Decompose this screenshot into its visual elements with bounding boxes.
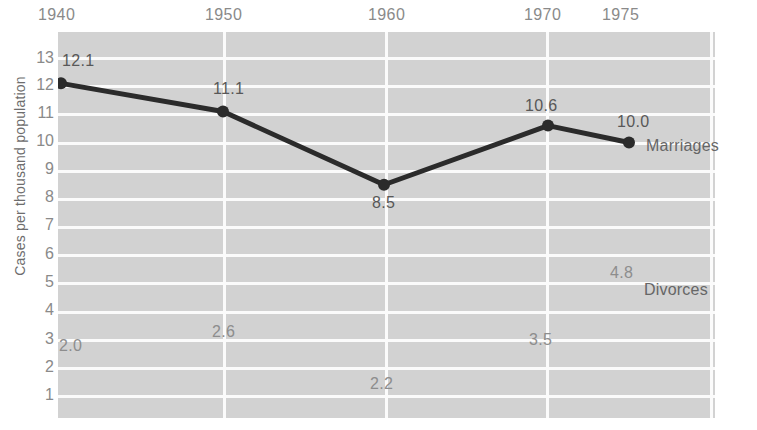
data-value-label: 2.6 xyxy=(212,323,235,341)
line-chart: Cases per thousand population 1312111098… xyxy=(0,0,757,430)
series-label-marriages: Marriages xyxy=(646,137,719,155)
y-axis-tick-label: 5 xyxy=(24,273,54,291)
data-value-label: 8.5 xyxy=(372,194,395,212)
y-axis-tick-label: 9 xyxy=(24,160,54,178)
y-axis-tick-label: 10 xyxy=(24,132,54,150)
y-axis-tick-label: 12 xyxy=(24,76,54,94)
y-axis-tick-label: 6 xyxy=(24,245,54,263)
x-axis-tick-label: 1950 xyxy=(205,6,242,24)
y-axis-tick-label: 4 xyxy=(24,301,54,319)
data-value-label: 2.0 xyxy=(59,337,82,355)
data-point-marker xyxy=(623,137,635,149)
y-axis-tick-label: 8 xyxy=(24,188,54,206)
data-value-label: 12.1 xyxy=(62,52,94,70)
y-axis-tick-label: 2 xyxy=(24,358,54,376)
y-axis-tick-label: 11 xyxy=(24,104,54,122)
x-axis-tick-label: 1975 xyxy=(602,6,639,24)
data-value-label: 10.6 xyxy=(525,97,557,115)
plot-area xyxy=(58,32,715,418)
data-value-label: 2.2 xyxy=(370,375,393,393)
y-axis-tick-label: 13 xyxy=(24,49,54,67)
x-axis-tick-label: 1970 xyxy=(524,6,561,24)
data-point-marker xyxy=(217,106,229,118)
data-point-marker xyxy=(58,77,67,89)
data-point-marker xyxy=(378,179,390,191)
data-value-label: 4.8 xyxy=(610,264,633,282)
y-axis-tick-label: 3 xyxy=(24,330,54,348)
data-value-label: 3.5 xyxy=(529,331,552,349)
x-axis-tick-label: 1940 xyxy=(38,6,75,24)
series-label-divorces: Divorces xyxy=(644,281,708,299)
marriages-series xyxy=(58,32,715,418)
marriages-markers xyxy=(58,77,635,190)
data-value-label: 11.1 xyxy=(213,80,244,98)
y-axis-tick-label: 7 xyxy=(24,216,54,234)
x-axis-tick-label: 1960 xyxy=(368,6,405,24)
data-point-marker xyxy=(542,120,554,132)
y-axis-tick-labels: 13121110987654321 xyxy=(18,0,54,430)
data-value-label: 10.0 xyxy=(617,113,649,131)
y-axis-tick-label: 1 xyxy=(24,386,54,404)
